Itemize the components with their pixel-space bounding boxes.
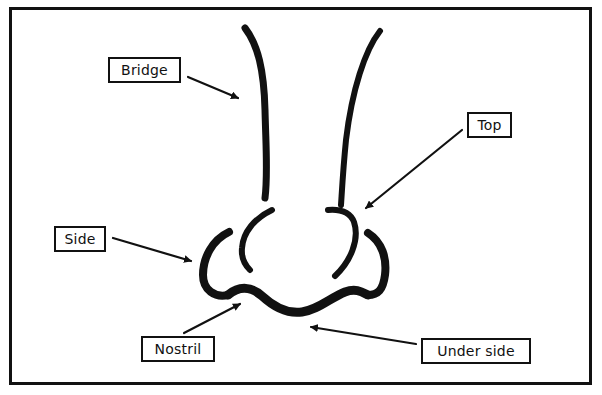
label-bridge: Bridge xyxy=(108,57,181,83)
nose-side-right-stroke xyxy=(368,233,385,295)
nose-top-stroke xyxy=(328,210,356,276)
label-side: Side xyxy=(54,226,106,252)
label-nostril-text: Nostril xyxy=(155,341,202,357)
label-bridge-text: Bridge xyxy=(121,62,168,78)
bridge-left-stroke xyxy=(245,28,267,198)
label-top: Top xyxy=(467,112,512,138)
side-arrow xyxy=(113,238,191,261)
label-under-side: Under side xyxy=(421,338,531,364)
nose-side-left-stroke xyxy=(203,232,229,296)
label-nostril: Nostril xyxy=(141,336,215,362)
nose-inner-left-stroke xyxy=(242,210,272,270)
label-side-text: Side xyxy=(64,231,95,247)
under-side-arrow xyxy=(311,327,416,344)
nose-drawing xyxy=(0,0,602,395)
bridge-right-stroke xyxy=(341,31,380,205)
top-arrow xyxy=(366,130,462,208)
nose-underside-stroke xyxy=(228,288,368,312)
nostril-arrow xyxy=(184,304,240,333)
label-under-side-text: Under side xyxy=(437,343,515,359)
bridge-arrow xyxy=(188,77,238,98)
label-top-text: Top xyxy=(477,117,501,133)
